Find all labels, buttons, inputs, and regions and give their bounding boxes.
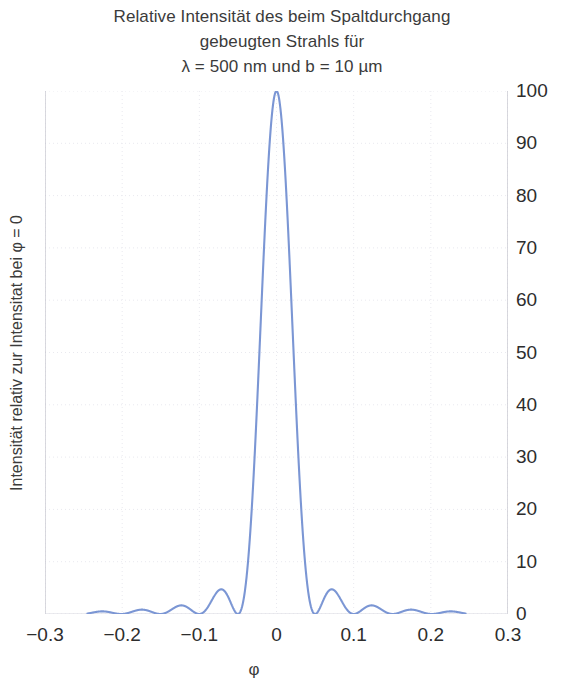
x-tick-label-2: −0.1 (164, 625, 234, 644)
diffraction-intensity-chart: Relative Intensität des beim Spaltdurchg… (0, 0, 564, 691)
chart-title-line-2: gebeugten Strahls für (0, 29, 564, 54)
y-tick-label-40: 40 (516, 395, 562, 414)
x-tick-label-5: 0.2 (396, 625, 466, 644)
y-tick-label-80: 80 (516, 186, 562, 205)
y-tick-label-10: 10 (516, 552, 562, 571)
x-tick-label-6: 0.3 (473, 625, 543, 644)
y-tick-label-70: 70 (516, 238, 562, 257)
chart-title-line-3: λ = 500 nm und b = 10 µm (0, 54, 564, 79)
chart-title: Relative Intensität des beim Spaltdurchg… (0, 4, 564, 79)
x-axis-label: φ (0, 660, 508, 680)
plot-area (45, 91, 508, 614)
x-tick-label-4: 0.1 (319, 625, 389, 644)
y-tick-label-90: 90 (516, 133, 562, 152)
y-tick-label-0: 0 (516, 604, 562, 623)
y-axis-label-container: Intensität relativ zur Intensitat bei φ … (0, 91, 34, 614)
y-tick-label-50: 50 (516, 343, 562, 362)
y-axis-label: Intensität relativ zur Intensitat bei φ … (8, 215, 26, 491)
chart-title-line-1: Relative Intensität des beim Spaltdurchg… (0, 4, 564, 29)
grid-lines (45, 91, 508, 614)
y-tick-label-20: 20 (516, 499, 562, 518)
y-tick-label-30: 30 (516, 447, 562, 466)
x-tick-label-1: −0.2 (87, 625, 157, 644)
x-tick-label-3: 0 (242, 625, 312, 644)
y-tick-label-60: 60 (516, 290, 562, 309)
y-tick-label-100: 100 (516, 81, 562, 100)
x-tick-label-0: −0.3 (10, 625, 80, 644)
plot-canvas (45, 91, 508, 614)
